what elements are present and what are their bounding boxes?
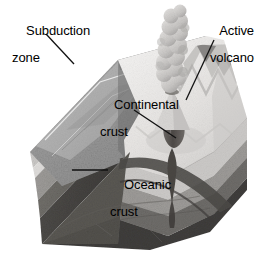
label-subduction-zone-line2: zone [12,51,90,65]
label-subduction-zone: Subduction zone [12,10,90,91]
label-continental-crust: Continental crust [100,84,179,165]
volcanic-plume [156,5,190,94]
subduction-zone-figure: Subduction zone Active volcano Continent… [0,0,257,260]
label-continental-crust-line2: crust [100,125,179,139]
label-subduction-zone-line1: Subduction [26,23,90,38]
label-oceanic-crust: Oceanic crust [110,164,171,245]
label-oceanic-crust-line1: Oceanic [124,177,171,192]
label-active-volcano-line2: volcano [186,51,254,65]
label-oceanic-crust-line2: crust [110,205,171,219]
label-active-volcano-line1: Active [219,23,254,38]
label-continental-crust-line1: Continental [114,97,179,112]
label-active-volcano: Active volcano [186,10,254,91]
